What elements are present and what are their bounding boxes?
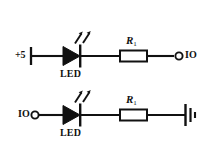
led-label-top: LED	[60, 69, 81, 79]
resistor-label-bottom-subscript: 1	[133, 99, 137, 107]
led-triangle-top	[63, 47, 80, 66]
led-emission-arrows-bottom	[75, 90, 91, 103]
resistor-body-top	[120, 51, 147, 62]
circuit-schematic-svg	[0, 0, 210, 151]
resistor-body-bottom	[120, 110, 147, 121]
circuit-sinking	[31, 90, 195, 127]
io-label-top: IO	[185, 50, 197, 60]
resistor-label-top: R1	[126, 35, 137, 46]
supply-voltage-label: +5	[15, 50, 25, 60]
resistor-label-top-subscript: 1	[133, 40, 137, 48]
ground-symbol	[186, 104, 196, 126]
circuit-sourcing	[31, 31, 183, 68]
io-label-bottom: IO	[18, 109, 30, 119]
led-triangle-bottom	[63, 106, 80, 125]
led-emission-arrows-top	[75, 31, 91, 44]
resistor-label-bottom: R1	[126, 94, 137, 105]
led-label-bottom: LED	[60, 128, 81, 138]
io-terminal-circle-bottom	[31, 111, 38, 118]
io-terminal-circle-top	[175, 52, 182, 59]
circuit-diagram: +5 LED R1 IO IO LED R1	[0, 0, 210, 151]
